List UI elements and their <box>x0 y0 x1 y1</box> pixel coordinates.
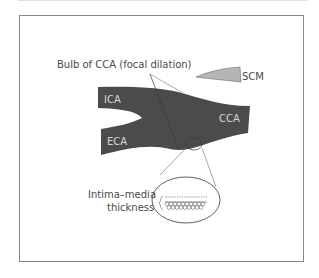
cca-label: CCA <box>219 113 240 124</box>
magnified-view <box>152 177 220 223</box>
zoom-line-left <box>160 147 187 175</box>
imt-label-line1: Intima–media <box>88 189 156 200</box>
scm-label: SCM <box>242 71 264 82</box>
ica-label: ICA <box>104 94 121 105</box>
carotid-diagram: Bulb of CCA (focal dilation) SCM ICA ECA… <box>0 0 319 278</box>
bulb-label: Bulb of CCA (focal dilation) <box>57 59 192 70</box>
scm-muscle <box>196 67 241 82</box>
imt-label-line2: thickness <box>107 202 154 213</box>
eca-label: ECA <box>107 136 127 147</box>
